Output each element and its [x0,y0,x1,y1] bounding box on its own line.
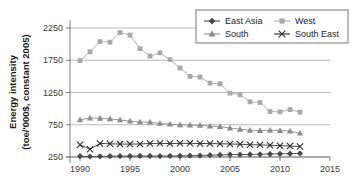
data-point-triangle [147,119,153,125]
y-tick-label: 1750 [43,55,63,65]
data-series-group [77,30,303,159]
series-line [80,33,300,113]
chart-canvas: Energy intensity (toe/'000$, constant 20… [0,0,352,188]
data-point-square [208,81,213,86]
data-point-cross [77,142,83,148]
data-point-square [268,109,273,114]
series-east-asia [77,150,303,159]
data-point-diamond [167,153,173,159]
data-point-diamond [257,151,263,157]
data-point-square [238,92,243,97]
legend-label: South [225,29,249,39]
data-point-square [278,109,283,114]
data-point-square [78,58,83,63]
data-point-diamond [117,153,123,159]
data-point-diamond [77,153,83,159]
x-tick-label: 2005 [220,164,240,174]
y-axis-ticks-group: 250750125017502250 [43,23,70,162]
data-point-square [158,50,163,55]
data-point-square [298,110,303,115]
gridlines-group [70,28,330,157]
data-point-square [118,30,123,35]
data-point-square [98,39,103,44]
data-point-square [168,57,173,62]
data-point-diamond [287,151,293,157]
data-point-diamond [137,153,143,159]
data-point-square [288,107,293,112]
data-point-square [108,40,113,45]
data-point-square [148,54,153,59]
x-tick-label: 1990 [70,164,90,174]
data-point-square [218,81,223,86]
data-point-square [178,66,183,71]
x-tick-label: 1995 [120,164,140,174]
x-axis-ticks-group: 199019952000200520102015 [70,157,340,174]
data-point-diamond [267,151,273,157]
data-point-diamond [297,150,303,156]
legend-label: West [295,16,316,26]
data-point-diamond [157,153,163,159]
data-point-square [188,74,193,79]
x-tick-label: 2000 [170,164,190,174]
data-point-square [228,91,233,96]
data-point-diamond [187,153,193,159]
y-tick-label: 250 [48,152,63,162]
legend-label: East Asia [225,16,263,26]
y-axis-title-line-2: (toe/'000$, constant 2005) [20,34,31,149]
series-south-east [77,140,303,152]
data-point-square [248,99,253,104]
data-point-diamond [277,151,283,157]
data-point-square [198,75,203,80]
data-point-square [258,100,263,105]
data-point-diamond [87,153,93,159]
data-point-square [138,46,143,51]
chart-legend[interactable]: East AsiaWestSouthSouth East [196,10,348,43]
y-tick-label: 1250 [43,88,63,98]
data-point-diamond [127,153,133,159]
y-axis-title: Energy intensity (toe/'000$, constant 20… [7,34,31,149]
data-point-diamond [107,153,113,159]
energy-intensity-line-chart: Energy intensity (toe/'000$, constant 20… [0,0,352,188]
data-point-triangle [267,127,273,133]
legend-label: South East [295,29,340,39]
data-point-diamond [97,153,103,159]
data-point-square [88,49,93,54]
legend-marker-square [279,18,284,23]
x-tick-label: 2015 [320,164,340,174]
y-tick-label: 750 [48,120,63,130]
data-point-diamond [177,153,183,159]
data-point-square [128,33,133,38]
y-axis-title-line-1: Energy intensity [7,54,18,129]
data-point-cross [87,146,93,152]
y-tick-label: 2250 [43,23,63,33]
x-tick-label: 2010 [270,164,290,174]
data-point-diamond [147,153,153,159]
data-point-diamond [197,152,203,158]
data-point-triangle [87,115,93,121]
